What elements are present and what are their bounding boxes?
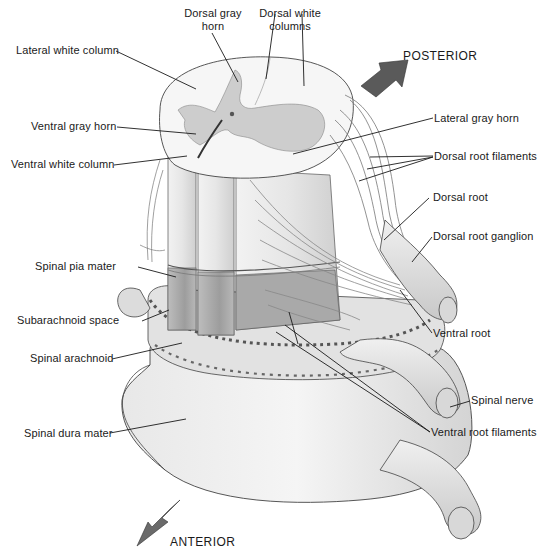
- label-posterior: POSTERIOR: [403, 49, 477, 63]
- label-dorsal-root: Dorsal root: [433, 191, 488, 204]
- label-ventral-root-filaments: Ventral root filaments: [431, 426, 537, 439]
- label-anterior: ANTERIOR: [170, 535, 235, 549]
- label-dorsal-gray-horn-line1: Dorsal gray: [182, 7, 244, 20]
- label-lateral-gray-horn: Lateral gray horn: [434, 112, 519, 125]
- spinal-cord-cross-section: [160, 57, 354, 178]
- label-ventral-root: Ventral root: [433, 327, 490, 340]
- label-spinal-pia-mater: Spinal pia mater: [35, 260, 116, 273]
- label-dorsal-root-ganglion: Dorsal root ganglion: [433, 230, 533, 243]
- label-spinal-nerve: Spinal nerve: [471, 394, 533, 407]
- label-subarachnoid-space: Subarachnoid space: [17, 314, 119, 327]
- spinal-cord-illustration: [0, 0, 554, 552]
- label-dorsal-white-columns: Dorsal white columns: [255, 7, 325, 33]
- label-dorsal-gray-horn-line2: horn: [182, 20, 244, 33]
- label-lateral-white-column: Lateral white column: [16, 44, 119, 57]
- label-dorsal-white-columns-line1: Dorsal white: [255, 7, 325, 20]
- label-spinal-dura-mater: Spinal dura mater: [24, 427, 113, 440]
- label-dorsal-gray-horn: Dorsal gray horn: [182, 7, 244, 33]
- spinal-cord-diagram: Dorsal gray horn Dorsal white columns La…: [0, 0, 554, 552]
- label-ventral-gray-horn: Ventral gray horn: [31, 120, 116, 133]
- label-dorsal-root-filaments: Dorsal root filaments: [434, 150, 537, 163]
- posterior-arrow-icon: [361, 60, 408, 97]
- label-dorsal-white-columns-line2: columns: [255, 20, 325, 33]
- label-spinal-arachnoid: Spinal arachnoid: [30, 352, 114, 365]
- label-ventral-white-column: Ventral white column: [11, 158, 115, 171]
